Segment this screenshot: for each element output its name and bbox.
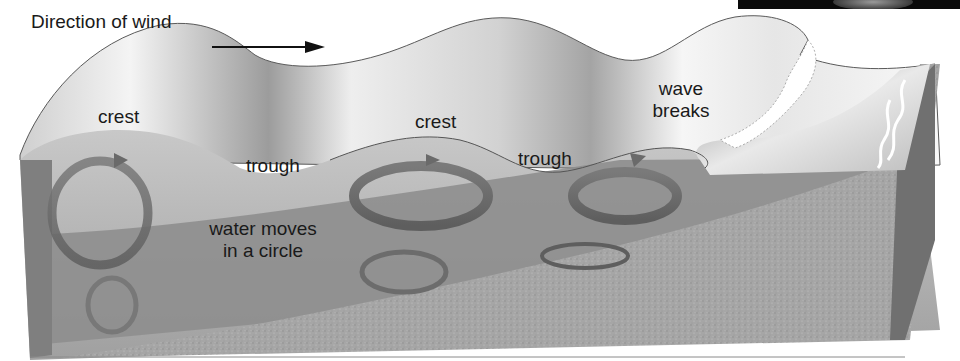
wave-breaks-label: wave breaks: [636, 78, 726, 122]
wave-breaks-line1: wave: [636, 78, 726, 100]
trough-label-1: trough: [246, 155, 300, 177]
water-moves-line2: in a circle: [195, 240, 331, 262]
crest-label-1: crest: [98, 106, 139, 128]
wind-direction-label: Direction of wind: [31, 11, 171, 33]
water-moves-label: water moves in a circle: [195, 218, 331, 262]
wave-breaks-line2: breaks: [636, 100, 726, 122]
block-left-edge: [20, 160, 52, 358]
wave-cross-section-diagram: [0, 0, 960, 361]
water-moves-line1: water moves: [195, 218, 331, 240]
trough-label-2: trough: [518, 148, 572, 170]
crest-label-2: crest: [415, 111, 456, 133]
